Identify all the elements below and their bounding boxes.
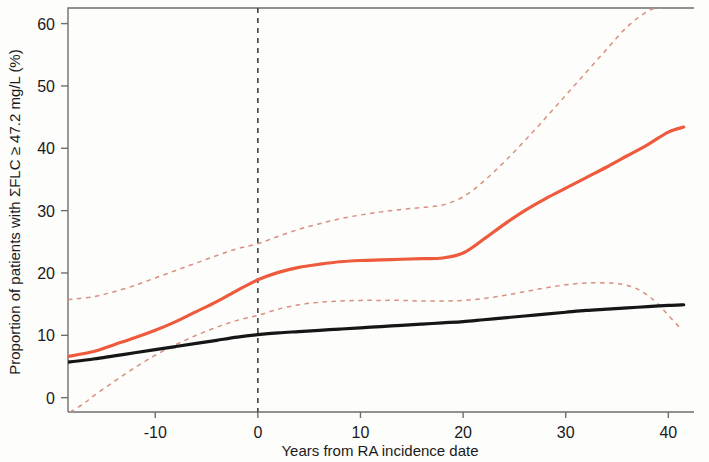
x-tick-label: 30 [557,424,575,441]
chart-figure: -10010203040 0102030405060 Years from RA… [0,0,709,462]
y-tick-label: 30 [37,203,55,220]
x-tick-label: 0 [253,424,262,441]
y-tick-label: 10 [37,327,55,344]
x-axis-title: Years from RA incidence date [281,442,478,459]
x-tick-label: 20 [454,424,472,441]
y-axis-title: Proportion of patients with ΣFLC ≥ 47.2 … [6,49,23,374]
chart-svg: -10010203040 0102030405060 Years from RA… [0,0,709,462]
y-tick-label: 0 [46,390,55,407]
x-tick-label: 40 [659,424,677,441]
chart-background [0,0,709,462]
y-tick-label: 50 [37,78,55,95]
y-tick-label: 40 [37,140,55,157]
x-tick-label: -10 [144,424,167,441]
y-tick-label: 60 [37,16,55,33]
y-tick-label: 20 [37,265,55,282]
x-tick-label: 10 [352,424,370,441]
